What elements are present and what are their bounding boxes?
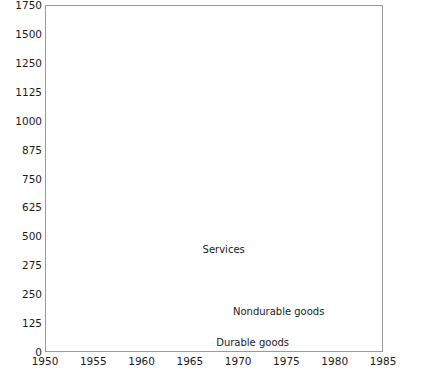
y-tick-1125: 1125 [0,87,42,98]
x-tick-1965: 1965 [176,356,203,367]
x-tick-1960: 1960 [128,356,155,367]
series-label-durable-goods: Durable goods [216,338,289,348]
y-tick-250: 250 [0,289,42,300]
y-tick-750: 750 [0,174,42,185]
stacked-area-chart: 0125250275500625750875100011251250150017… [0,0,428,376]
y-tick-1500: 1500 [0,29,42,40]
y-tick-875: 875 [0,145,42,156]
y-tick-1000: 1000 [0,116,42,127]
y-tick-1250: 1250 [0,58,42,69]
x-tick-1985: 1985 [370,356,397,367]
y-tick-125: 125 [0,318,42,329]
x-tick-1970: 1970 [225,356,252,367]
x-tick-1950: 1950 [32,356,59,367]
y-tick-625: 625 [0,202,42,213]
y-tick-500: 500 [0,231,42,242]
y-tick-275: 275 [0,260,42,271]
x-tick-1955: 1955 [80,356,107,367]
y-tick-1750: 1750 [0,0,42,11]
series-label-nondurable-goods: Nondurable goods [233,307,324,317]
plot-area: Services Nondurable goods Durable goods [45,5,383,352]
series-label-services: Services [203,245,245,255]
plot-frame [45,5,383,352]
x-tick-1980: 1980 [321,356,348,367]
x-tick-1975: 1975 [273,356,300,367]
